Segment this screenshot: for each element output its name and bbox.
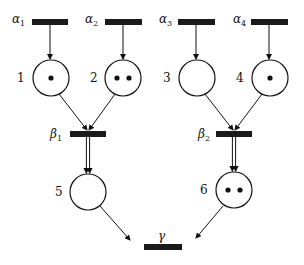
place-6: 6: [200, 172, 252, 208]
token-dot: [225, 187, 230, 192]
transition-beta2: β2: [197, 127, 252, 143]
arc-beta1-to-p5: [86, 137, 89, 173]
transition-alpha2: α2: [85, 12, 142, 28]
token-dot: [48, 75, 53, 80]
transition-bar: [178, 19, 215, 25]
transition-bar: [70, 131, 106, 137]
transition-label: α2: [85, 12, 98, 28]
transition-label: α4: [233, 12, 246, 28]
arc-beta2-to-p6: [232, 137, 235, 171]
token-dot: [267, 75, 272, 80]
arc-p1-to-beta1: [59, 94, 87, 130]
place-label: 6: [200, 183, 208, 197]
place-3: 3: [163, 60, 215, 96]
petri-net-diagram: 123456 α1α2α3α4β1β2γ: [0, 0, 304, 265]
transition-beta1: β1: [49, 127, 106, 143]
transition-bar: [32, 19, 68, 25]
transition-label: β2: [197, 127, 210, 143]
transition-label: α3: [159, 12, 172, 28]
transition-alpha3: α3: [159, 12, 215, 28]
arc-p6-to-gamma: [196, 206, 223, 238]
transition-bar: [251, 19, 288, 25]
place-circle: [70, 174, 106, 210]
place-label: 5: [55, 185, 63, 199]
place-circle: [216, 172, 252, 208]
transition-bar: [216, 131, 252, 137]
transitions: α1α2α3α4β1β2γ: [12, 12, 288, 250]
place-circle: [179, 60, 215, 96]
place-5: 5: [55, 174, 106, 210]
place-label: 2: [90, 71, 98, 85]
transition-bar: [105, 19, 142, 25]
transition-label: γ: [158, 229, 166, 243]
token-dot: [126, 75, 131, 80]
token-dot: [237, 187, 242, 192]
arc-p4-to-beta2: [235, 94, 262, 130]
place-2: 2: [90, 60, 141, 96]
transition-label: α1: [12, 12, 25, 28]
transition-bar: [144, 244, 182, 250]
arc-p2-to-beta1: [89, 94, 115, 130]
place-label: 3: [163, 71, 171, 85]
place-label: 1: [17, 71, 25, 85]
place-4: 4: [236, 60, 288, 96]
arc-p3-to-beta2: [205, 94, 233, 130]
transition-gamma: γ: [144, 229, 182, 250]
place-1: 1: [17, 60, 69, 96]
arc-p5-to-gamma: [100, 206, 130, 240]
token-dot: [114, 75, 119, 80]
place-circle: [105, 60, 141, 96]
transition-alpha1: α1: [12, 12, 68, 28]
place-label: 4: [236, 71, 244, 85]
transition-alpha4: α4: [233, 12, 288, 28]
transition-label: β1: [49, 127, 62, 143]
